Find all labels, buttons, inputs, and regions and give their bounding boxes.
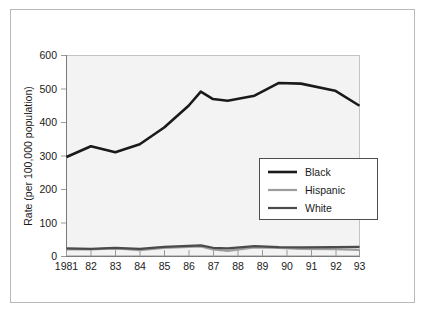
y-tick-label: 500 xyxy=(39,83,57,95)
x-tick-label: 83 xyxy=(110,260,122,272)
y-tick-label: 400 xyxy=(39,116,57,128)
x-tick-label: 88 xyxy=(232,260,244,272)
y-tick-label: 100 xyxy=(39,217,57,229)
x-tick-label: 93 xyxy=(354,260,366,272)
x-tick-label: 84 xyxy=(134,260,146,272)
line-chart: 600 500 400 300 200 100 0 Rate (per 100,… xyxy=(0,0,426,313)
legend-label-hispanic: Hispanic xyxy=(305,184,345,196)
chart-legend: Black Hispanic White xyxy=(260,159,378,220)
plot-background xyxy=(66,55,360,256)
y-tick-label: 300 xyxy=(39,150,57,162)
x-tick-label: 86 xyxy=(183,260,195,272)
y-axis-ticks xyxy=(61,56,66,257)
y-axis-tick-labels: 600 500 400 300 200 100 0 xyxy=(39,49,57,262)
x-tick-label: 87 xyxy=(208,260,220,272)
y-tick-label: 200 xyxy=(39,183,57,195)
legend-label-white: White xyxy=(305,202,332,214)
x-axis-tick-labels: 1981 82 83 84 85 86 87 88 89 90 91 92 93 xyxy=(55,260,366,272)
x-tick-label: 91 xyxy=(306,260,318,272)
chart-figure: 600 500 400 300 200 100 0 Rate (per 100,… xyxy=(0,0,426,313)
legend-label-black: Black xyxy=(305,166,331,178)
x-tick-label: 85 xyxy=(159,260,171,272)
x-tick-label: 89 xyxy=(257,260,269,272)
x-tick-label: 1981 xyxy=(55,260,79,272)
y-tick-label: 600 xyxy=(39,49,57,61)
x-tick-label: 82 xyxy=(85,260,97,272)
y-axis-title: Rate (per 100,000 population) xyxy=(22,86,34,226)
x-tick-label: 90 xyxy=(281,260,293,272)
x-tick-label: 92 xyxy=(330,260,342,272)
